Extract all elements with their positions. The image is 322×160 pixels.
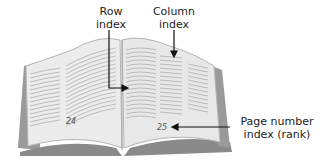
right-page-number: 25 — [157, 121, 167, 134]
left-page — [26, 38, 122, 148]
row-index-label: Row index — [94, 5, 128, 31]
page-number-label: Page number index (rank) — [232, 115, 322, 141]
column-index-label: Column index — [146, 5, 202, 31]
left-page-number: 24 — [66, 115, 76, 128]
